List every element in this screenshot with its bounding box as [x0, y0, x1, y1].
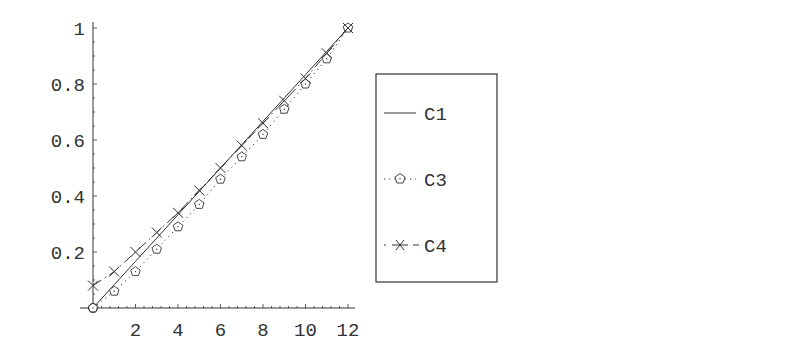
x-tick-label: 4: [172, 320, 183, 342]
pentagon-dot: [399, 178, 400, 179]
x-marker-icon: [237, 141, 247, 151]
series-line: [93, 28, 348, 286]
x-marker-icon: [109, 267, 119, 277]
pentagon-dot: [92, 307, 93, 308]
legend-label-c3: C3: [424, 170, 447, 192]
y-tick-label: 0.2: [51, 243, 85, 265]
y-tick-label: 1: [74, 19, 85, 41]
pentagon-dot: [220, 179, 221, 180]
x-marker-icon: [173, 208, 183, 218]
x-tick-label: 6: [215, 320, 226, 342]
pentagon-dot: [199, 204, 200, 205]
x-marker-icon: [131, 247, 141, 257]
x-tick-label: 10: [294, 320, 317, 342]
pentagon-dot: [114, 291, 115, 292]
series-layer: [88, 23, 353, 313]
pentagon-dot: [262, 134, 263, 135]
legend: C1 C3 C4: [376, 74, 497, 282]
pentagon-dot: [177, 226, 178, 227]
y-tick-label: 0.6: [51, 131, 85, 153]
x-tick-label: 12: [337, 320, 360, 342]
y-tick-label: 0.4: [51, 187, 85, 209]
x-marker-icon: [194, 185, 204, 195]
pentagon-dot: [305, 83, 306, 84]
x-tick-label: 2: [130, 320, 141, 342]
series-c4: [88, 23, 353, 291]
x-marker-icon: [258, 118, 268, 128]
x-marker-icon: [152, 227, 162, 237]
pentagon-dot: [326, 58, 327, 59]
axes: 246810120.20.40.60.81: [51, 19, 360, 342]
legend-label-c1: C1: [424, 104, 447, 126]
x-marker-icon: [216, 163, 226, 173]
pentagon-dot: [241, 156, 242, 157]
line-chart: 246810120.20.40.60.81 C1 C3 C4: [0, 0, 800, 349]
pentagon-dot: [135, 271, 136, 272]
y-tick-label: 0.8: [51, 75, 85, 97]
legend-label-c4: C4: [424, 236, 447, 258]
pentagon-dot: [156, 249, 157, 250]
pentagon-dot: [284, 109, 285, 110]
x-tick-label: 8: [257, 320, 268, 342]
